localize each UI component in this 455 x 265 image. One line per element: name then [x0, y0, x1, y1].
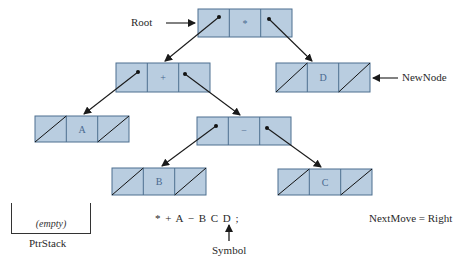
edge-minus-b: [162, 126, 216, 166]
edge-plus-minus: [185, 74, 240, 115]
tree-node-c: C: [278, 169, 372, 195]
node-value: +: [160, 72, 166, 83]
node-value: −: [241, 125, 247, 136]
newnode-label: NewNode: [402, 71, 447, 83]
stack-content: (empty): [12, 218, 90, 229]
node-value: *: [243, 18, 248, 29]
next-move-label: NextMove = Right: [369, 212, 452, 224]
tree-node-minus: −: [197, 117, 291, 145]
ptr-stack-label: PtrStack: [29, 237, 66, 249]
node-value: D: [319, 72, 326, 83]
root-label: Root: [131, 16, 152, 28]
tree-node-b: B: [112, 168, 206, 195]
node-value: C: [322, 177, 329, 188]
tree-node-a: A: [35, 116, 129, 142]
ptr-stack: (empty): [11, 203, 91, 234]
node-value: B: [156, 176, 163, 187]
symbol-label: Symbol: [212, 244, 246, 256]
edge-minus-c: [267, 128, 321, 167]
tree-node-d: D: [276, 63, 370, 92]
node-value: A: [78, 124, 86, 135]
edge-root-plus: [165, 17, 219, 61]
expression-text: * + A − B C D ;: [155, 212, 240, 224]
edge-plus-a: [84, 72, 138, 114]
